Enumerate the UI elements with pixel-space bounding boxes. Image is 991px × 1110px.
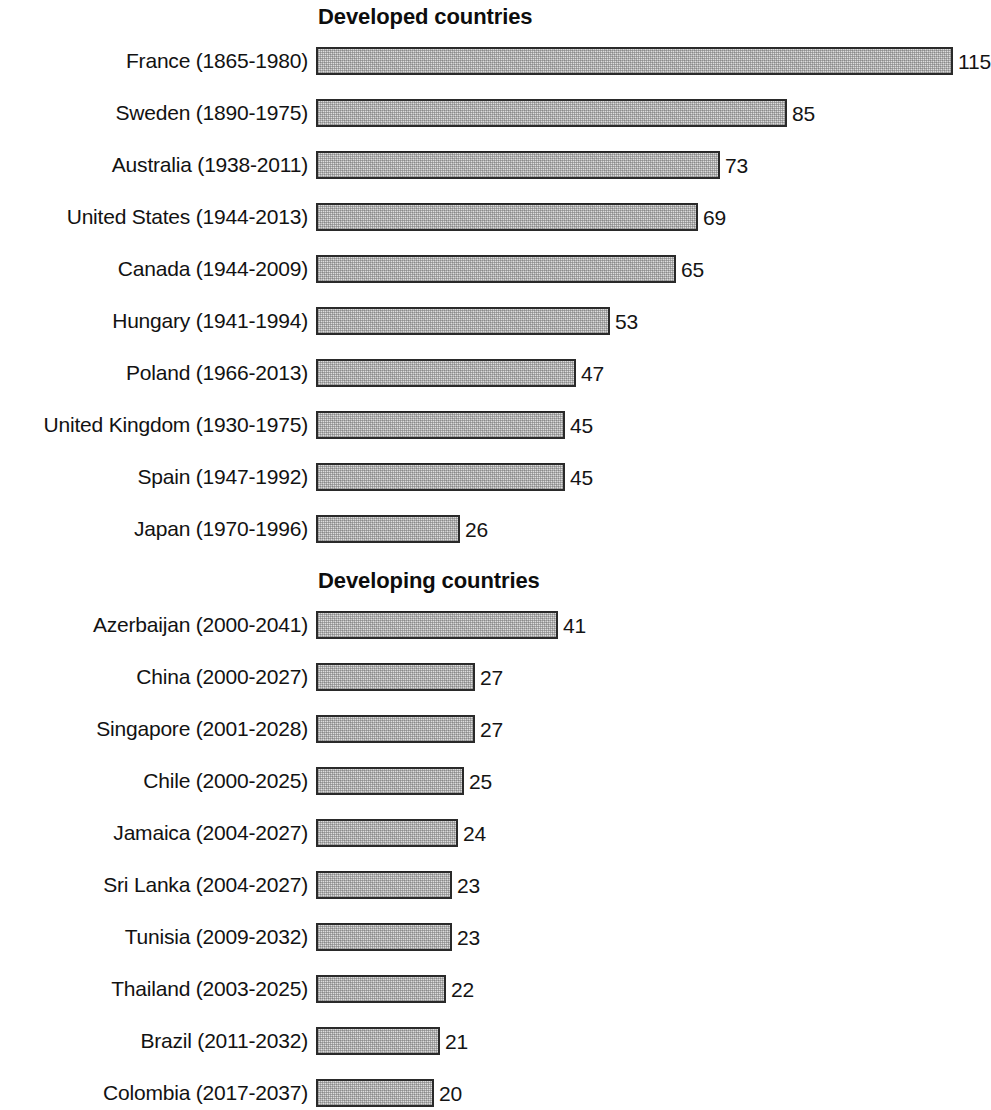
- bar-category-label: Australia (1938-2011): [0, 148, 308, 182]
- bar: [316, 47, 953, 75]
- bar: [316, 255, 676, 283]
- bar-row: China (2000-2027)27: [0, 660, 991, 694]
- bar-row: Canada (1944-2009)65: [0, 252, 991, 286]
- bar-row: Spain (1947-1992)45: [0, 460, 991, 494]
- bar-row: Australia (1938-2011)73: [0, 148, 991, 182]
- bar: [316, 871, 452, 899]
- section-title-2: Developing countries: [318, 568, 540, 594]
- bar: [316, 663, 475, 691]
- bar-row: United States (1944-2013)69: [0, 200, 991, 234]
- bar-value-label: 73: [720, 151, 748, 179]
- bar-row: Chile (2000-2025)25: [0, 764, 991, 798]
- bar-category-label: United States (1944-2013): [0, 200, 308, 234]
- bar-row: Sri Lanka (2004-2027)23: [0, 868, 991, 902]
- bar: [316, 923, 452, 951]
- bar-value-label: 47: [576, 359, 604, 387]
- bar: [316, 611, 558, 639]
- bar-row: Tunisia (2009-2032)23: [0, 920, 991, 954]
- bar-row: Azerbaijan (2000-2041)41: [0, 608, 991, 642]
- bar: [316, 203, 698, 231]
- bar: [316, 359, 576, 387]
- bar-category-label: Poland (1966-2013): [0, 356, 308, 390]
- bar-value-label: 25: [464, 767, 492, 795]
- bar-category-label: Sri Lanka (2004-2027): [0, 868, 308, 902]
- bar: [316, 515, 460, 543]
- bar-row: Japan (1970-1996)26: [0, 512, 991, 546]
- bar-value-label: 27: [475, 715, 503, 743]
- bar: [316, 307, 610, 335]
- bar-row: France (1865-1980)115: [0, 44, 991, 78]
- bar-value-label: 22: [446, 975, 474, 1003]
- bar-row: Jamaica (2004-2027)24: [0, 816, 991, 850]
- bar-row: Sweden (1890-1975)85: [0, 96, 991, 130]
- bar-category-label: Thailand (2003-2025): [0, 972, 308, 1006]
- bar-category-label: Sweden (1890-1975): [0, 96, 308, 130]
- bar-category-label: Chile (2000-2025): [0, 764, 308, 798]
- bar-category-label: United Kingdom (1930-1975): [0, 408, 308, 442]
- bar-row: Hungary (1941-1994)53: [0, 304, 991, 338]
- bar-value-label: 20: [434, 1079, 462, 1107]
- bar-value-label: 41: [558, 611, 586, 639]
- bar: [316, 151, 720, 179]
- bar-row: Brazil (2011-2032)21: [0, 1024, 991, 1058]
- bar-row: United Kingdom (1930-1975)45: [0, 408, 991, 442]
- bar: [316, 1027, 440, 1055]
- bar-category-label: Singapore (2001-2028): [0, 712, 308, 746]
- bar-category-label: Spain (1947-1992): [0, 460, 308, 494]
- bar-row: Colombia (2017-2037)20: [0, 1076, 991, 1110]
- bar-category-label: Azerbaijan (2000-2041): [0, 608, 308, 642]
- bar-value-label: 27: [475, 663, 503, 691]
- bar-row: Poland (1966-2013)47: [0, 356, 991, 390]
- bar-value-label: 45: [565, 463, 593, 491]
- bar-value-label: 23: [452, 871, 480, 899]
- bar-row: Singapore (2001-2028)27: [0, 712, 991, 746]
- bar-value-label: 24: [458, 819, 486, 847]
- bar-value-label: 115: [953, 47, 991, 75]
- bar-category-label: China (2000-2027): [0, 660, 308, 694]
- bar-category-label: Jamaica (2004-2027): [0, 816, 308, 850]
- bar: [316, 715, 475, 743]
- bar-value-label: 65: [676, 255, 704, 283]
- bar-category-label: Tunisia (2009-2032): [0, 920, 308, 954]
- bar: [316, 1079, 434, 1107]
- bar: [316, 99, 787, 127]
- bar-category-label: Canada (1944-2009): [0, 252, 308, 286]
- bar: [316, 975, 446, 1003]
- bar-value-label: 85: [787, 99, 815, 127]
- bar-value-label: 21: [440, 1027, 468, 1055]
- bar: [316, 767, 464, 795]
- bar-category-label: Japan (1970-1996): [0, 512, 308, 546]
- bar: [316, 819, 458, 847]
- bar-category-label: France (1865-1980): [0, 44, 308, 78]
- bar-value-label: 69: [698, 203, 726, 231]
- section-title-1: Developed countries: [318, 4, 533, 30]
- bar-category-label: Colombia (2017-2037): [0, 1076, 308, 1110]
- bar: [316, 463, 565, 491]
- bar-row: Thailand (2003-2025)22: [0, 972, 991, 1006]
- bar-value-label: 26: [460, 515, 488, 543]
- bar-value-label: 23: [452, 923, 480, 951]
- bar-value-label: 45: [565, 411, 593, 439]
- bar: [316, 411, 565, 439]
- bar-category-label: Brazil (2011-2032): [0, 1024, 308, 1058]
- bar-value-label: 53: [610, 307, 638, 335]
- bar-category-label: Hungary (1941-1994): [0, 304, 308, 338]
